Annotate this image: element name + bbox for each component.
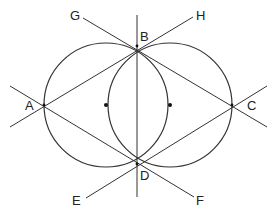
label-d: D bbox=[140, 168, 149, 183]
left-center-dot bbox=[104, 103, 108, 107]
label-h: H bbox=[196, 8, 205, 23]
label-e: E bbox=[72, 193, 81, 208]
line-F-A bbox=[10, 86, 194, 197]
point-a bbox=[43, 104, 46, 107]
right-center-dot bbox=[168, 103, 172, 107]
point-b bbox=[136, 45, 139, 48]
point-c bbox=[231, 104, 234, 107]
label-c: C bbox=[247, 98, 256, 113]
line-G-C bbox=[83, 18, 267, 127]
line-E-C bbox=[86, 86, 267, 198]
geometry-diagram: A B C D E F G H bbox=[0, 0, 273, 212]
label-f: F bbox=[196, 193, 204, 208]
diagram-svg: A B C D E F G H bbox=[0, 0, 273, 212]
label-a: A bbox=[25, 98, 34, 113]
label-g: G bbox=[70, 8, 80, 23]
line-H-A bbox=[10, 17, 193, 127]
label-b: B bbox=[140, 29, 149, 44]
point-d bbox=[136, 163, 139, 166]
